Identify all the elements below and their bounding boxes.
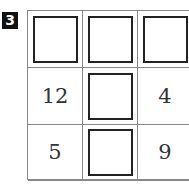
answer-box[interactable] — [143, 16, 188, 63]
number-grid: 12 4 5 9 — [27, 10, 189, 180]
answer-box[interactable] — [88, 73, 133, 120]
answer-box[interactable] — [88, 16, 133, 63]
grid-cell-r0c2 — [138, 11, 189, 68]
grid-cell-r1c0: 12 — [28, 68, 83, 125]
problem-number-label: 3 — [2, 12, 18, 29]
grid-cell-r1c1 — [83, 68, 138, 125]
grid-cell-r2c2: 9 — [138, 124, 189, 181]
answer-box[interactable] — [33, 16, 78, 63]
answer-box[interactable] — [88, 129, 133, 176]
grid-cell-r2c0: 5 — [28, 124, 83, 181]
grid-cell-r0c1 — [83, 11, 138, 68]
grid-cell-r0c0 — [28, 11, 83, 68]
grid-cell-r1c2: 4 — [138, 68, 189, 125]
grid-cell-r2c1 — [83, 124, 138, 181]
